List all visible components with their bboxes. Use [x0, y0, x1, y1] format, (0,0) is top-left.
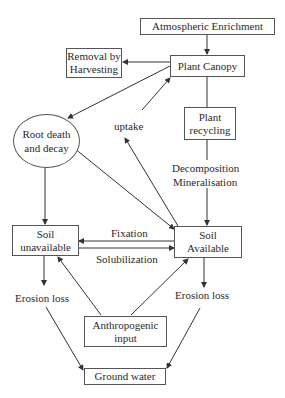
- node-soil-available: Soil Available: [174, 226, 242, 258]
- arrow-uptake-canopy: [142, 78, 170, 110]
- node-label-line1: Root death: [23, 127, 71, 141]
- edge-label-erosion-right: Erosion loss: [175, 289, 229, 302]
- node-removal-by-harvesting: Removal by Harvesting: [66, 48, 122, 78]
- node-label-line1: Removal by: [67, 50, 120, 63]
- edge-label-uptake: uptake: [114, 120, 143, 133]
- arrow-erosion-groundwater-left: [46, 307, 83, 370]
- arrow-root-soilavail: [74, 148, 174, 229]
- node-label-line2: input: [114, 332, 137, 345]
- node-label-line1: Anthropogenic: [93, 319, 159, 332]
- node-label-line2: and decay: [24, 141, 68, 155]
- node-label-line2: recycling: [190, 124, 231, 137]
- node-soil-unavailable: Soil unavailable: [12, 225, 79, 256]
- node-label-line1: Soil: [199, 229, 217, 242]
- edge-label-fixation: Fixation: [111, 227, 148, 240]
- node-ground-water: Ground water: [84, 368, 166, 385]
- arrow-anthro-soilunavail: [58, 257, 101, 315]
- node-label: Ground water: [95, 370, 156, 383]
- node-root-death-decay: Root death and decay: [13, 114, 80, 168]
- node-label-line1: Soil: [37, 228, 55, 241]
- arrow-erosion-groundwater-right: [167, 308, 200, 368]
- node-label: Atmospheric Enrichment: [152, 20, 263, 33]
- node-label-line1: Plant: [199, 111, 222, 124]
- node-label-line2: Harvesting: [70, 63, 118, 76]
- edge-label-solubilization: Solubilization: [96, 253, 158, 266]
- node-atmospheric-enrichment: Atmospheric Enrichment: [140, 18, 275, 35]
- node-plant-canopy: Plant Canopy: [170, 55, 245, 77]
- edge-label-mineralisation: Mineralisation: [173, 176, 237, 189]
- node-plant-recycling: Plant recycling: [184, 107, 236, 140]
- edge-label-erosion-left: Erosion loss: [15, 292, 69, 305]
- node-label: Plant Canopy: [178, 60, 238, 73]
- arrow-anthro-soilavail: [131, 259, 188, 315]
- edge-label-decomposition: Decomposition: [172, 162, 239, 175]
- node-label-line2: Available: [187, 242, 229, 255]
- node-label-line2: unavailable: [20, 241, 71, 254]
- arrow-soil-uptake: [125, 138, 178, 226]
- node-anthropogenic-input: Anthropogenic input: [84, 316, 167, 347]
